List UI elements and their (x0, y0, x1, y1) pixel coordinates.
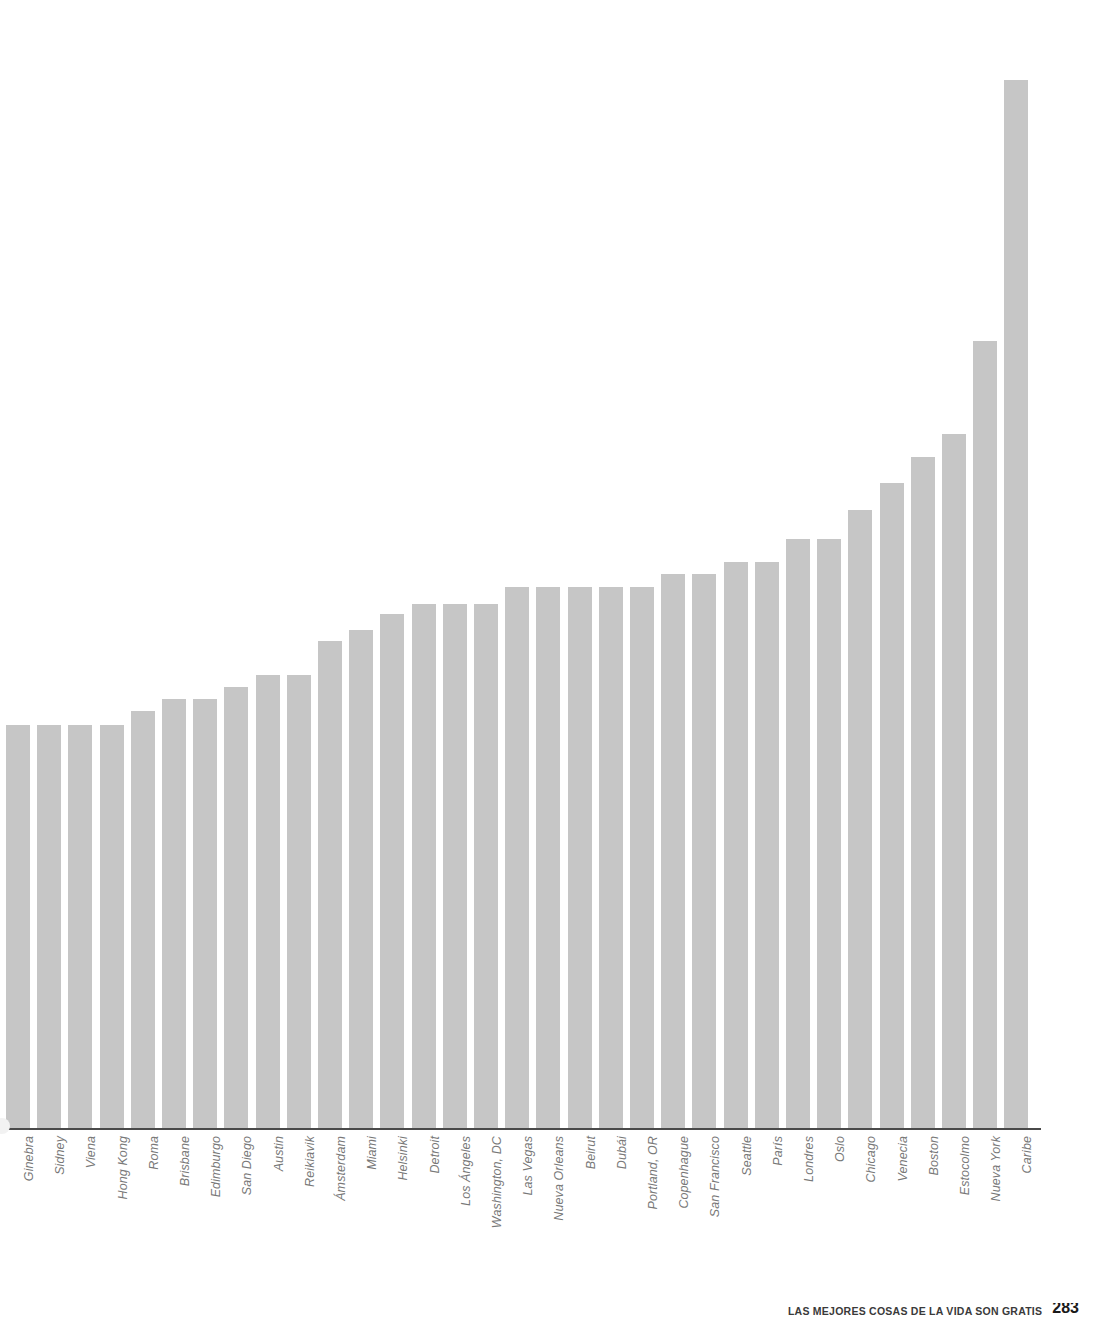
bar (630, 587, 654, 1130)
bar (505, 587, 529, 1130)
bar (911, 457, 935, 1130)
footer-page-number: 283 (1052, 1303, 1079, 1317)
x-tick-label: Ámsterdam (335, 1136, 348, 1201)
x-tick-label: Chicago (865, 1136, 878, 1183)
x-tick-label: Dubái (616, 1136, 629, 1169)
bar (162, 699, 186, 1130)
bar (599, 587, 623, 1130)
bar (224, 687, 248, 1130)
x-tick-label: París (772, 1136, 785, 1166)
x-tick-label: Edimburgo (210, 1136, 223, 1197)
bar (443, 604, 467, 1130)
x-tick-label: Nueva Orleans (553, 1136, 566, 1221)
bar (318, 641, 342, 1130)
x-tick-label: Roma (148, 1136, 161, 1170)
x-tick-label: Brisbane (179, 1136, 192, 1186)
footer-caption: LAS MEJORES COSAS DE LA VIDA SON GRATIS (788, 1305, 1042, 1317)
bar (661, 574, 685, 1130)
bar-chart-figure: GinebraSidneyVienaHong KongRomaBrisbaneE… (0, 0, 1097, 1317)
bar (68, 725, 92, 1130)
x-tick-label: Ginebra (23, 1136, 36, 1181)
bar (349, 630, 373, 1130)
x-axis-line (0, 1128, 1041, 1130)
x-tick-label: Hong Kong (117, 1136, 130, 1199)
bar (100, 725, 124, 1130)
bar (380, 614, 404, 1130)
x-tick-label: Oslo (834, 1136, 847, 1162)
bar (131, 711, 155, 1130)
x-tick-label: Boston (928, 1136, 941, 1176)
bar (6, 725, 30, 1130)
x-tick-label: Viena (85, 1136, 98, 1168)
x-axis-tick-labels: GinebraSidneyVienaHong KongRomaBrisbaneE… (0, 1136, 1060, 1286)
bar (287, 675, 311, 1130)
bar (880, 483, 904, 1130)
x-tick-label: Reikiavik (304, 1136, 317, 1187)
x-tick-label: Los Ángeles (460, 1136, 473, 1206)
x-tick-label: Londres (803, 1136, 816, 1182)
bar (256, 675, 280, 1130)
x-tick-label: Las Vegas (522, 1136, 535, 1196)
x-tick-label: Helsinki (397, 1136, 410, 1181)
x-tick-label: Venecia (897, 1136, 910, 1181)
bar (412, 604, 436, 1130)
x-tick-label: Detroit (429, 1136, 442, 1174)
x-tick-label: Caribe (1021, 1136, 1034, 1173)
x-tick-label: Austin (273, 1136, 286, 1171)
x-tick-label: Estocolmo (959, 1136, 972, 1195)
bar (973, 341, 997, 1130)
x-tick-label: San Francisco (709, 1136, 722, 1217)
bar (692, 574, 716, 1130)
x-tick-label: Copenhague (678, 1136, 691, 1209)
page-footer: LAS MEJORES COSAS DE LA VIDA SON GRATIS … (788, 1303, 1079, 1317)
bar (942, 434, 966, 1131)
bar (786, 539, 810, 1130)
bar (37, 725, 61, 1130)
x-tick-label: San Diego (241, 1136, 254, 1195)
bar (536, 587, 560, 1130)
plot-area (0, 40, 1060, 1130)
bar (193, 699, 217, 1130)
x-tick-label: Sidney (54, 1136, 67, 1175)
bar (568, 587, 592, 1130)
x-tick-label: Nueva York (990, 1136, 1003, 1201)
x-tick-label: Washington, DC (491, 1136, 504, 1228)
bar (474, 604, 498, 1130)
x-tick-label: Beirut (585, 1136, 598, 1169)
bar (724, 562, 748, 1130)
x-tick-label: Miami (366, 1136, 379, 1170)
x-tick-label: Seattle (741, 1136, 754, 1176)
bar (755, 562, 779, 1130)
x-tick-label: Portland, OR (647, 1136, 660, 1209)
bar (817, 539, 841, 1130)
bar (848, 510, 872, 1130)
bar (1004, 80, 1028, 1130)
